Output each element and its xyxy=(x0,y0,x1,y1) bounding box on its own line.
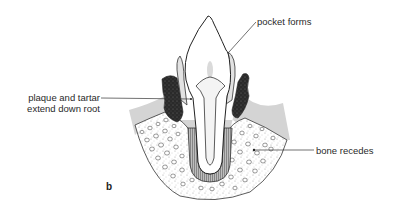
label-plaque-tartar: plaque and tartar extend down root xyxy=(20,92,100,114)
label-plaque-line2: extend down root xyxy=(20,103,100,114)
label-bone-recedes: bone recedes xyxy=(316,145,374,156)
crown-shade xyxy=(207,61,213,79)
panel-letter: b xyxy=(106,181,112,192)
label-plaque-line1: plaque and tartar xyxy=(20,92,100,103)
label-pocket-forms: pocket forms xyxy=(257,16,311,27)
leader-pocket xyxy=(229,22,256,52)
